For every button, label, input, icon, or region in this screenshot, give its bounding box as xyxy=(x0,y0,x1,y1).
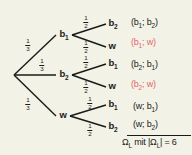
node-b1: b1 xyxy=(59,29,68,41)
node-b2: b2 xyxy=(59,69,68,81)
outcome-b1-w: (b1; w) xyxy=(131,38,156,49)
edge-b2-w xyxy=(72,75,106,87)
tree-edges xyxy=(0,0,192,155)
outcome-b1-b2: (b1; b2) xyxy=(131,18,158,29)
prob-b1-w: 1 2 xyxy=(83,40,88,54)
prob-root-b2: 1 3 xyxy=(39,58,44,72)
outcome-w-b1: (w; b1) xyxy=(133,102,158,113)
leaf-b1-w: w xyxy=(108,41,115,53)
edge-b2-b1 xyxy=(72,64,106,75)
leaf-w-b1: b1 xyxy=(108,99,117,111)
leaf-b2-w: w xyxy=(108,81,115,93)
prob-b1-b2: 1 2 xyxy=(83,15,88,29)
node-w: w xyxy=(59,110,66,122)
prob-b2-w: 1 2 xyxy=(83,80,88,94)
outcome-b2-w: (b2; w) xyxy=(131,80,156,91)
sample-space-formula: ΩL mit |ΩL| = 6 xyxy=(122,138,177,149)
leaf-w-b2: b2 xyxy=(108,121,117,133)
summary-divider xyxy=(127,135,191,136)
edge-b1-w xyxy=(72,35,106,47)
prob-root-w: 1 3 xyxy=(25,97,30,111)
edge-b1-b2 xyxy=(72,24,106,35)
outcome-b2-b1: (b2; b1) xyxy=(131,60,158,71)
leaf-b1-b2: b2 xyxy=(108,18,117,30)
leaf-b2-b1: b1 xyxy=(108,58,117,70)
prob-w-b1: 1 2 xyxy=(87,96,92,110)
outcome-w-b2: (w; b2) xyxy=(133,120,158,131)
prob-b2-b1: 1 2 xyxy=(83,55,88,69)
edge-root-w xyxy=(14,75,56,116)
edge-root-b1 xyxy=(14,35,56,75)
prob-w-b2: 1 2 xyxy=(87,123,92,137)
probability-tree-diagram: b1 b2 w 1 3 1 3 1 3 b2 w b1 w b1 b2 1 2 … xyxy=(0,0,192,155)
prob-root-b1: 1 3 xyxy=(25,38,30,52)
